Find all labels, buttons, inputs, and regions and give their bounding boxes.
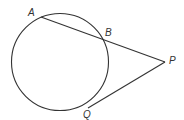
secant-line-ap [41, 17, 165, 62]
label-point-b: B [105, 27, 112, 38]
geometry-diagram: A B P Q [0, 0, 184, 120]
label-point-p: P [169, 55, 176, 66]
tangent-line-pq [88, 62, 165, 108]
label-point-a: A [27, 7, 35, 18]
circle [12, 14, 109, 111]
label-point-q: Q [83, 109, 91, 120]
